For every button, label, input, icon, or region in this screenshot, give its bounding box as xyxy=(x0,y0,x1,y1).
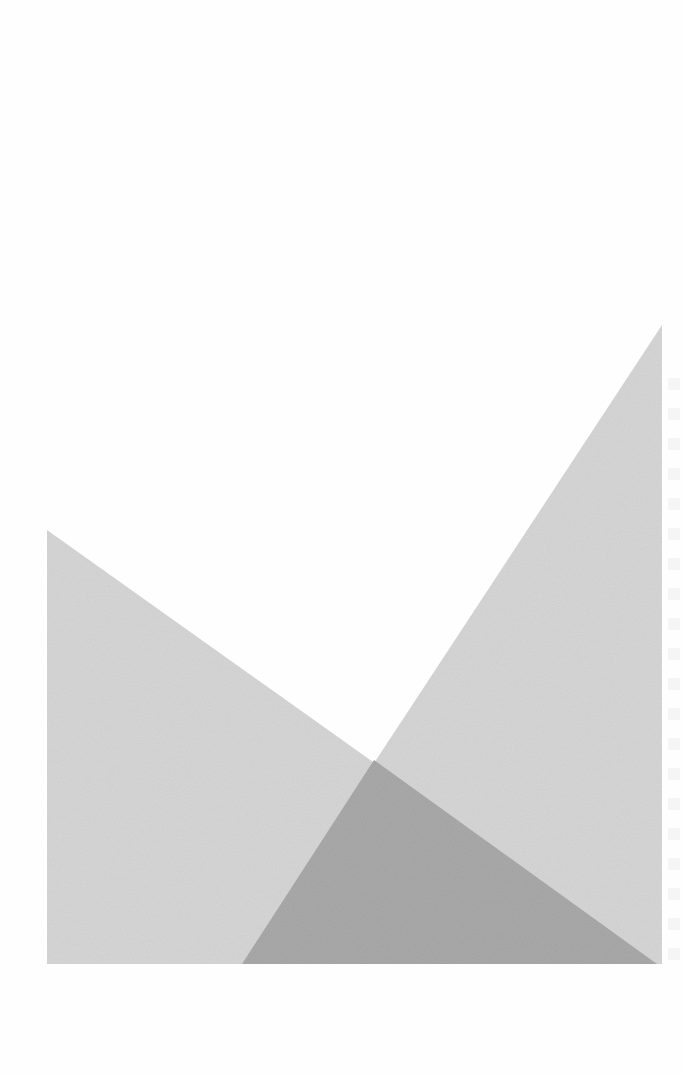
scanned-page xyxy=(0,0,683,1074)
show-through-text-bleed xyxy=(668,360,680,960)
triangle-graphic xyxy=(0,0,683,1074)
